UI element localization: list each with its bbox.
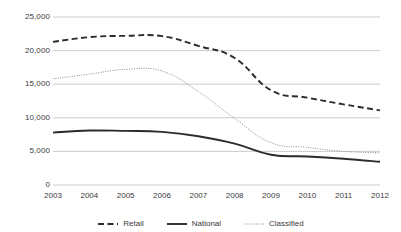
x-tick-label-2011: 2011	[335, 191, 352, 200]
legend-label: Retail	[123, 219, 143, 228]
legend-label: National	[192, 219, 221, 228]
x-tick-label-2003: 2003	[44, 191, 62, 200]
legend-label: Classified	[269, 219, 304, 228]
x-tick-label-2012: 2012	[371, 191, 389, 200]
legend-swatch-classified-icon	[243, 220, 265, 228]
x-tick-label-2006: 2006	[153, 191, 171, 200]
legend-swatch-retail-icon	[97, 220, 119, 228]
chart-legend: RetailNationalClassified	[0, 219, 401, 228]
x-tick-label-2004: 2004	[80, 191, 98, 200]
line-chart: 25,00020,00015,00010,0005,0000 200320042…	[0, 0, 401, 232]
x-tick-label-2008: 2008	[226, 191, 244, 200]
x-axis-tick-labels: 2003200420052006200720082009201020112012	[0, 0, 401, 232]
legend-item-retail[interactable]: Retail	[97, 219, 143, 228]
x-tick-label-2005: 2005	[117, 191, 135, 200]
x-tick-label-2007: 2007	[189, 191, 207, 200]
legend-item-national[interactable]: National	[166, 219, 221, 228]
legend-swatch-national-icon	[166, 220, 188, 228]
x-tick-label-2009: 2009	[262, 191, 280, 200]
x-tick-label-2010: 2010	[298, 191, 316, 200]
legend-item-classified[interactable]: Classified	[243, 219, 304, 228]
